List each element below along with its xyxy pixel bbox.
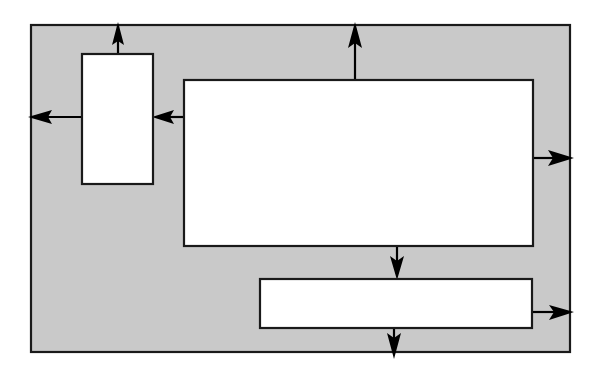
node-main-box[interactable] xyxy=(184,80,533,246)
diagram-canvas xyxy=(0,0,594,377)
node-left-box[interactable] xyxy=(82,54,153,184)
block-diagram xyxy=(0,0,594,377)
node-bottom-box[interactable] xyxy=(260,279,532,328)
